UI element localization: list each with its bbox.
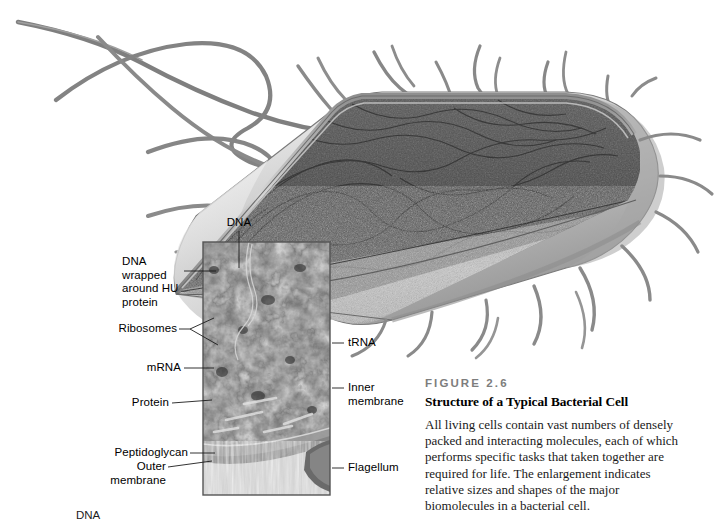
figure-caption-body: All living cells contain vast numbers of…: [425, 417, 687, 514]
label-mrna: mRNA: [119, 361, 181, 375]
figure-caption: FIGURE 2.6 Structure of a Typical Bacter…: [425, 377, 687, 514]
label-dna-top: DNA: [204, 216, 274, 230]
label-ribosomes: Ribosomes: [99, 322, 177, 336]
figure-title: Structure of a Typical Bacterial Cell: [425, 394, 687, 410]
label-trna: tRNA: [348, 336, 418, 350]
label-protein: Protein: [115, 396, 169, 410]
label-dna-wrapped-hu: DNA wrapped around HU protein: [122, 255, 188, 309]
label-peptidoglycan: Peptidoglycan: [110, 446, 188, 460]
label-outer-membrane: Outer membrane: [96, 460, 166, 487]
next-figure-label-fragment: DNA: [76, 509, 100, 521]
label-flagellum: Flagellum: [348, 461, 422, 475]
enlargement-inset: [203, 242, 330, 495]
figure-2-6: DNA DNA wrapped around HU protein Riboso…: [0, 0, 716, 532]
figure-number: FIGURE 2.6: [425, 377, 687, 389]
label-inner-membrane: Inner membrane: [348, 381, 422, 408]
